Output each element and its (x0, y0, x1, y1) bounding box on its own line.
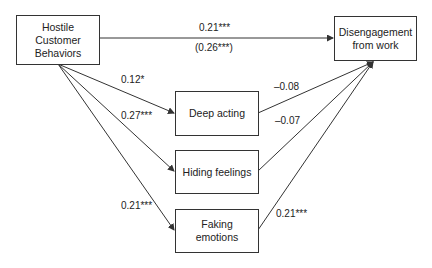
coef-hiding-feelings-to-disengagement: –0.07 (275, 115, 300, 126)
arrow-hostile-to-hiding-feelings (58, 64, 174, 171)
node-hiding-feelings: Hiding feelings (175, 150, 259, 194)
node-hostile-customer-behaviors: Hostile Customer Behaviors (16, 15, 100, 65)
coef-hostile-to-faking-emotions: 0.21*** (121, 200, 152, 211)
coef-hostile-to-disengagement: 0.21*** (199, 22, 230, 33)
coef-deep-acting-to-disengagement: –0.08 (274, 81, 299, 92)
coef-hostile-to-deep-acting: 0.12* (121, 74, 144, 85)
node-disengagement-from-work: Disengagement from work (334, 16, 417, 61)
coef-faking-emotions-to-disengagement: 0.21*** (276, 208, 307, 219)
coef-hostile-to-hiding-feelings: 0.27*** (121, 110, 152, 121)
node-faking-emotions: Faking emotions (175, 209, 259, 253)
node-deep-acting: Deep acting (175, 91, 259, 136)
coef-hostile-to-disengagement-total: (0.26***) (195, 42, 233, 53)
